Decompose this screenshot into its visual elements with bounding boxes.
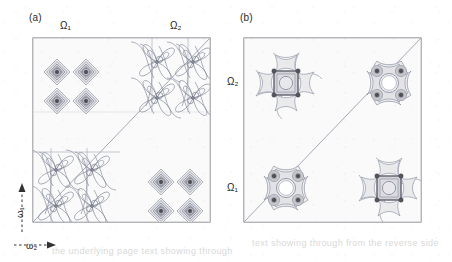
bleed-text-line-a: the underlying page text showing through (52, 246, 233, 256)
panel-b-plot (0, 0, 452, 262)
panel-b-cross-peak-upper-right (367, 61, 411, 105)
bleed-text-line-b: text showing through from the reverse si… (252, 238, 439, 248)
panel-b-cross-peak-lower-left (264, 166, 308, 210)
figure-root: (a) Ω₁ Ω₂ (0, 0, 452, 262)
